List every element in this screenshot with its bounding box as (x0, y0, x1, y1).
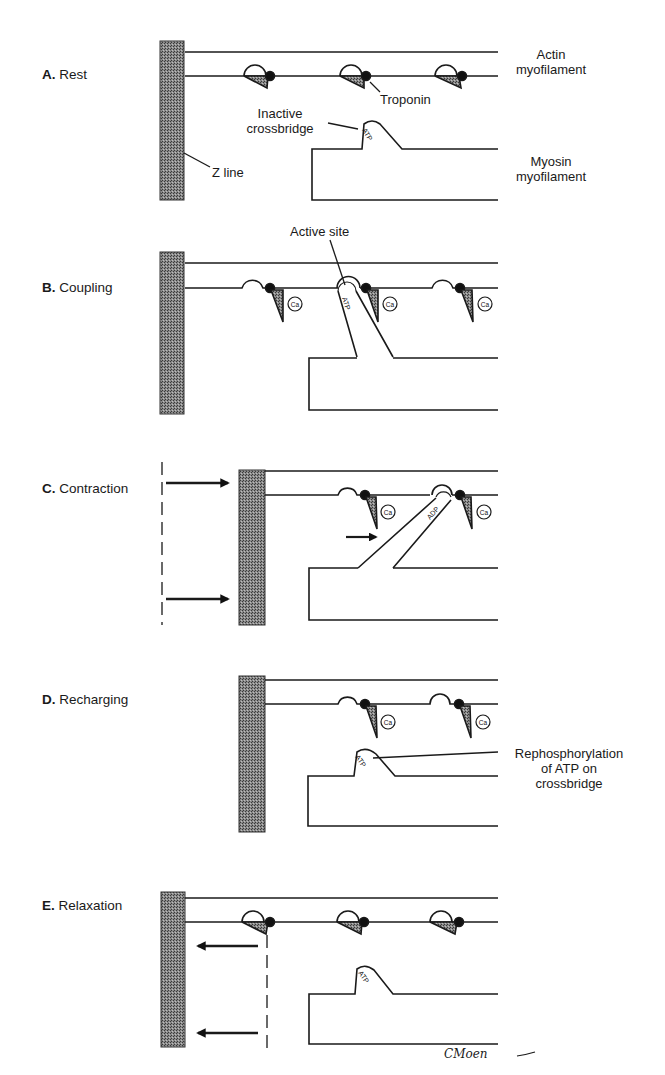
troponin-unit (340, 65, 371, 88)
myosin-filament (309, 358, 498, 410)
stage-title-b: B. Coupling (42, 280, 113, 295)
stage-d-recharging (239, 676, 498, 832)
ca-label: Ca (479, 719, 488, 726)
stage-title-c: C. Contraction (42, 481, 128, 496)
adp-label-c: ADP (426, 505, 441, 521)
stage-title-a: A. Rest (42, 67, 87, 82)
troponin-label: Troponin (380, 92, 431, 107)
troponin-unit (244, 65, 275, 88)
troponin-pointer (370, 82, 380, 92)
myosin-filament (312, 121, 498, 200)
zline-pointer (184, 153, 210, 167)
rephosphorylation-label: Rephosphorylationof ATP oncrossbridge (494, 746, 644, 791)
stage-e-relaxation (161, 892, 535, 1056)
z-line-band (160, 252, 184, 414)
ca-label: Ca (291, 301, 300, 308)
ca-label: Ca (481, 301, 490, 308)
z-line-band (239, 470, 265, 625)
stage-title-e: E. Relaxation (42, 898, 122, 913)
inactive-crossbridge-label: Inactivecrossbridge (230, 106, 330, 136)
z-line-band (161, 892, 185, 1047)
ca-label: Ca (384, 509, 393, 516)
rephos-pointer (373, 752, 498, 758)
ca-label: Ca (480, 509, 489, 516)
zline-label: Z line (212, 165, 244, 180)
troponin-unit (435, 65, 467, 88)
stage-title-d: D. Recharging (42, 692, 128, 707)
artist-signature: CMoen (444, 1047, 488, 1061)
inactive-pointer (328, 123, 358, 129)
actin-label: Actinmyofilament (506, 47, 596, 77)
stage-b-coupling (160, 240, 498, 414)
myosin-filament (309, 966, 498, 1044)
z-line-band (239, 676, 265, 832)
stage-c-contraction (162, 462, 498, 625)
z-line-band (160, 41, 184, 200)
active-site-label: Active site (290, 224, 349, 239)
myosin-filament (308, 749, 498, 826)
ca-label: Ca (386, 301, 395, 308)
atp-label-e: ATP (357, 970, 370, 985)
myosin-label: Myosinmyofilament (506, 154, 596, 184)
myosin-filament (309, 568, 498, 620)
ca-label: Ca (384, 719, 393, 726)
